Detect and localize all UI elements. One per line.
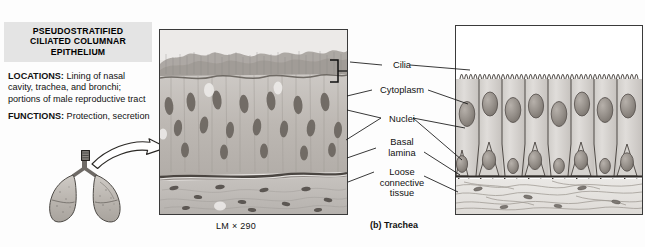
label-loose-connective-tissue: Loose connective tissue <box>346 167 458 199</box>
label-cytoplasm: Cytoplasm <box>346 85 458 96</box>
functions-label: FUNCTIONS: <box>8 111 64 121</box>
functions-text: Protection, secretion <box>64 111 149 121</box>
micrograph-panel <box>159 29 348 215</box>
label-loose-line-3: tissue <box>346 188 458 199</box>
label-basal-lamina-line-2: lamina <box>346 148 458 159</box>
tissue-title-line-2: CILIATED COLUMNAR <box>8 36 148 46</box>
locations-block: LOCATIONS: Lining of nasal cavity, trach… <box>4 71 152 105</box>
label-loose-line-2: connective <box>346 178 458 189</box>
figure-pseudostratified-ciliated-columnar-epithelium: PSEUDOSTRATIFIED CILIATED COLUMNAR EPITH… <box>0 0 645 247</box>
tissue-title-band: PSEUDOSTRATIFIED CILIATED COLUMNAR EPITH… <box>4 22 152 62</box>
label-basal-lamina: Basal lamina <box>346 137 458 158</box>
tissue-title-line-1: PSEUDOSTRATIFIED <box>8 26 148 36</box>
micrograph-caption: LM × 290 <box>216 221 256 231</box>
functions-block: FUNCTIONS: Protection, secretion <box>4 111 152 122</box>
label-loose-line-1: Loose <box>346 167 458 178</box>
label-column: Cilia Cytoplasm Nuclei Basal lamina Loos… <box>346 25 458 215</box>
micrograph-image <box>160 30 347 214</box>
description-column: PSEUDOSTRATIFIED CILIATED COLUMNAR EPITH… <box>4 22 152 122</box>
epithelium-diagram <box>456 26 642 214</box>
label-nuclei: Nuclei <box>346 114 458 125</box>
label-basal-lamina-line-1: Basal <box>346 137 458 148</box>
tissue-title-line-3: EPITHELIUM <box>8 47 148 57</box>
locations-label: LOCATIONS: <box>8 71 64 81</box>
label-cilia: Cilia <box>346 60 458 71</box>
diagram-panel <box>455 25 643 215</box>
diagram-caption: (b) Trachea <box>370 220 418 230</box>
curved-arrow-icon <box>88 138 170 178</box>
